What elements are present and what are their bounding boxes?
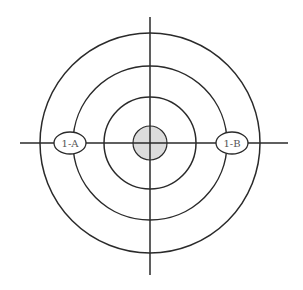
- label-1-a: 1-A: [54, 132, 86, 154]
- label-text: 1-A: [62, 138, 80, 149]
- concentric-target-diagram: 1-A1-B: [0, 0, 303, 290]
- label-text: 1-B: [223, 138, 240, 149]
- label-1-b: 1-B: [216, 132, 248, 154]
